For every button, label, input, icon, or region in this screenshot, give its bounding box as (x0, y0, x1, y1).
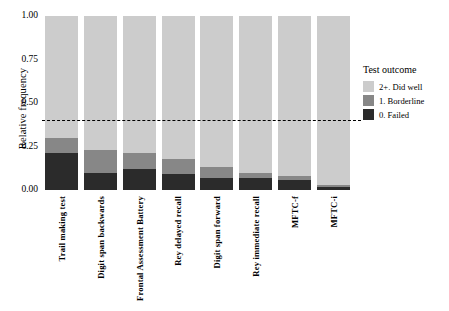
legend: Test outcome 2+. Did well1. Borderline0.… (363, 64, 449, 123)
x-axis-label-slot: Digit span backwards (84, 192, 117, 307)
bar-digit-span-forward (200, 16, 233, 190)
bar-segment (123, 153, 156, 169)
x-axis-labels: Trail making testDigit span backwardsFro… (42, 192, 353, 307)
bar-segment (162, 16, 195, 159)
bar-segment (45, 153, 78, 190)
legend-item: 1. Borderline (363, 95, 449, 106)
legend-label: 1. Borderline (379, 96, 424, 106)
bar-segment (200, 178, 233, 190)
bar-segment (317, 187, 350, 190)
threshold-dashed-line (42, 120, 361, 121)
legend-items: 2+. Did well1. Borderline0. Failed (363, 81, 449, 120)
bar-segment (123, 16, 156, 153)
x-axis-label: Digit span forward (212, 196, 222, 268)
bar-segment (162, 159, 195, 175)
legend-title: Test outcome (363, 64, 449, 75)
bar-trail-making-test (45, 16, 78, 190)
bar-segment (278, 180, 311, 190)
x-axis-label-slot: MFTC-f (278, 192, 311, 307)
y-axis-tick-label: 1.00 (4, 11, 38, 21)
bar-segment (317, 16, 350, 185)
legend-item: 2+. Did well (363, 81, 449, 92)
x-axis-label-slot: Digit span forward (200, 192, 233, 307)
legend-swatch-icon (363, 81, 374, 92)
bar-segment (239, 16, 272, 173)
bar-segment (278, 176, 311, 179)
bar-segment (123, 169, 156, 190)
legend-swatch-icon (363, 95, 374, 106)
bar-segment (278, 16, 311, 176)
x-axis-label-slot: Rey delayed recall (162, 192, 195, 307)
bar-rey-immediate-recall (239, 16, 272, 190)
x-axis-label: Trail making test (57, 196, 67, 261)
relative-frequency-stacked-bar-chart: Relative frequency 0.000.250.500.751.00 … (0, 0, 449, 311)
bar-segment (84, 16, 117, 150)
bar-segment (200, 167, 233, 177)
bar-segment (239, 178, 272, 190)
legend-label: 2+. Did well (379, 82, 422, 92)
legend-label: 0. Failed (379, 110, 409, 120)
bar-segment (162, 174, 195, 190)
bar-rey-delayed-recall (162, 16, 195, 190)
bar-segment (84, 173, 117, 190)
plot-area (42, 16, 353, 190)
legend-swatch-icon (363, 109, 374, 120)
x-axis-label-slot: Trail making test (45, 192, 78, 307)
x-axis-label-slot: Rey immediate recall (239, 192, 272, 307)
bar-segment (317, 185, 350, 187)
bar-mftc-i (317, 16, 350, 190)
x-axis-label: Rey delayed recall (173, 196, 183, 266)
y-axis-ticks: 0.000.250.500.751.00 (0, 0, 38, 311)
bar-mftc-f (278, 16, 311, 190)
x-axis-label: Rey immediate recall (251, 196, 261, 277)
x-axis-label: MFTC-f (290, 196, 300, 228)
x-axis-label-slot: MFTC-i (317, 192, 350, 307)
y-axis-tick-label: 0.25 (4, 142, 38, 152)
y-axis-tick-label: 0.75 (4, 55, 38, 65)
bar-segment (200, 16, 233, 167)
bar-segment (239, 173, 272, 178)
x-axis-label-slot: Frontal Assessment Battery (123, 192, 156, 307)
bar-frontal-assessment-battery (123, 16, 156, 190)
y-axis-tick-label: 0.00 (4, 185, 38, 195)
x-axis-label: MFTC-i (329, 196, 339, 227)
y-axis-tick-label: 0.50 (4, 98, 38, 108)
x-axis-label: Frontal Assessment Battery (135, 196, 145, 301)
legend-item: 0. Failed (363, 109, 449, 120)
bar-digit-span-backwards (84, 16, 117, 190)
bar-segment (45, 138, 78, 154)
x-axis-label: Digit span backwards (96, 196, 106, 279)
bar-segment (84, 150, 117, 173)
